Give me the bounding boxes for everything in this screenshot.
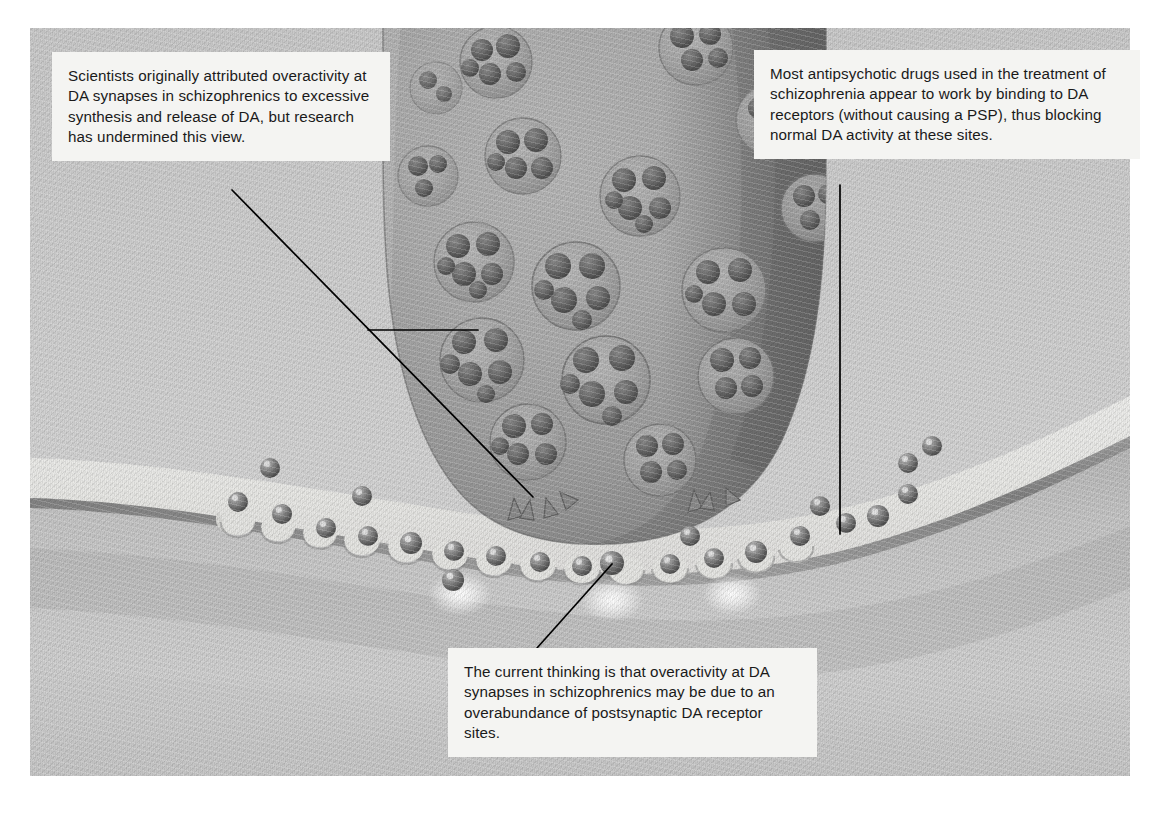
dopamine-molecule (836, 513, 856, 533)
dopamine-molecule (898, 453, 918, 473)
dopamine-molecule (260, 458, 280, 478)
synaptic-vesicle (434, 222, 514, 302)
dopamine-molecule (444, 541, 464, 561)
synaptic-vesicle (682, 248, 766, 332)
dopamine-molecule (680, 526, 700, 546)
dopamine-molecule (400, 532, 422, 554)
synaptic-vesicle (398, 146, 458, 206)
callout-antipsychotic-note: Most antipsychotic drugs used in the tre… (754, 50, 1140, 159)
dopamine-molecule (810, 496, 830, 516)
dopamine-molecule (704, 548, 724, 568)
dopamine-molecule (442, 569, 464, 591)
dopamine-molecule (898, 484, 918, 504)
dopamine-molecule (486, 546, 506, 566)
dopamine-molecule (660, 554, 680, 574)
dopamine-molecule (272, 504, 292, 524)
synaptic-vesicle (490, 404, 566, 480)
dopamine-molecule (600, 551, 624, 575)
dopamine-molecule (745, 541, 767, 563)
synaptic-vesicle (532, 242, 620, 330)
callout-postsynaptic-note: The current thinking is that overactivit… (448, 648, 817, 757)
synaptic-vesicle (600, 156, 680, 236)
synaptic-vesicle (485, 118, 561, 194)
dopamine-molecule (790, 526, 810, 546)
dopamine-molecule (572, 556, 592, 576)
synaptic-vesicle (460, 28, 532, 98)
synaptic-vesicle (440, 318, 524, 403)
figure-page: Scientists originally attributed overact… (0, 0, 1161, 824)
synaptic-vesicle (410, 62, 462, 114)
dopamine-molecule (530, 552, 550, 572)
dopamine-molecule (352, 486, 372, 506)
callout-presynaptic-note: Scientists originally attributed overact… (52, 52, 390, 161)
dopamine-molecule (316, 518, 336, 538)
dopamine-molecule (867, 505, 889, 527)
synaptic-vesicle (624, 424, 696, 496)
dopamine-molecule (228, 492, 248, 512)
dopamine-molecule (358, 526, 378, 546)
dopamine-molecule (922, 436, 942, 456)
synaptic-vesicle (698, 338, 774, 414)
